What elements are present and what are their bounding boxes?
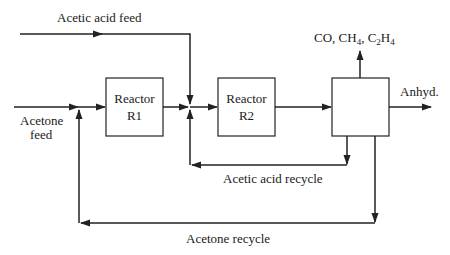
reactor-r1-label-line2: R1 xyxy=(127,108,142,123)
offgas-label: CO, CH4, C2H4 xyxy=(314,30,395,47)
acetone-recycle-label: Acetone recycle xyxy=(186,231,270,246)
reactor-r2: Reactor R2 xyxy=(218,78,275,136)
reactor-r2-label-line1: Reactor xyxy=(226,91,267,106)
anhydride-product-label: Anhyd. xyxy=(400,84,439,99)
acetic-acid-recycle-label: Acetic acid recycle xyxy=(223,171,323,186)
separator-unit xyxy=(332,78,389,136)
acetic-acid-feed-label: Acetic acid feed xyxy=(57,10,142,25)
acetone-feed-label-line2: feed xyxy=(30,127,53,142)
reactor-r1-label-line1: Reactor xyxy=(114,91,155,106)
acetone-feed-label-line1: Acetone xyxy=(20,113,64,128)
process-flow-diagram: Acetic acid feed Acetone feed Reactor R1… xyxy=(0,0,450,255)
reactor-r1: Reactor R1 xyxy=(106,78,163,136)
reactor-r2-label-line2: R2 xyxy=(239,108,254,123)
acetic-acid-feed-stream xyxy=(20,34,190,104)
